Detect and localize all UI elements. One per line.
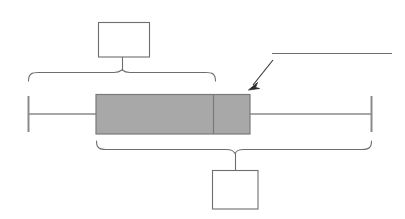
diagram-canvas xyxy=(0,0,405,219)
top-brace-icon xyxy=(29,70,216,81)
box-and-whisker-plot xyxy=(29,95,372,135)
interquartile-box xyxy=(96,95,250,135)
bottom-callout[interactable] xyxy=(97,141,372,209)
callout-arrow-shaft-icon xyxy=(253,60,273,85)
top-callout[interactable] xyxy=(29,23,216,82)
top-callout-label-box[interactable] xyxy=(99,23,150,58)
bottom-brace-icon xyxy=(97,141,372,154)
arrow-callout[interactable] xyxy=(249,54,393,91)
bottom-callout-label-box[interactable] xyxy=(213,171,259,210)
